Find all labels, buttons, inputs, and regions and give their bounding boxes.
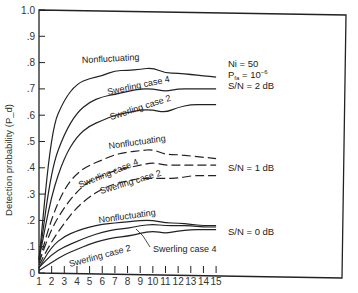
y-axis-label: Detection probability (P_d) — [3, 104, 14, 216]
label-sw2-2db: Swerling case 2 — [109, 93, 173, 122]
x-tick-label: 15 — [211, 276, 223, 287]
label-sw4-2db: Swerling case 4 — [106, 74, 170, 97]
x-tick-label: 13 — [185, 276, 197, 287]
x-tick-label: 11 — [160, 276, 171, 287]
x-tick-label: 4 — [74, 276, 80, 287]
y-tick-label: 1.0 — [21, 5, 35, 16]
x-axis: 123456789101112131415 — [36, 266, 222, 287]
label-nonfluct-1db: Nonfluctuating — [108, 133, 166, 151]
label-sw4-0db: Swerling case 4 — [153, 244, 217, 254]
y-tick-label: .9 — [27, 31, 36, 42]
x-tick-label: 7 — [112, 276, 118, 287]
annotation-sn2: S/N = 2 dB — [228, 80, 274, 91]
y-tick-label: .3 — [27, 189, 36, 200]
label-sw2-0db: Swerling case 2 — [68, 243, 132, 269]
x-tick-label: 8 — [125, 276, 131, 287]
y-tick-label: .1 — [27, 241, 36, 252]
y-tick-label: .6 — [27, 110, 36, 121]
x-tick-label: 12 — [173, 276, 185, 287]
label-nonfluct-2db: Nonfluctuating — [82, 52, 140, 65]
y-tick-label: .2 — [27, 215, 36, 226]
annotation-sn0: S/N = 0 dB — [228, 226, 274, 237]
x-tick-label: 6 — [99, 276, 105, 287]
y-tick-label: .8 — [27, 57, 36, 68]
y-tick-label: .5 — [27, 136, 36, 147]
annotation-sn1: S/N = 1 dB — [228, 162, 274, 173]
detection-probability-chart: 0.1.2.3.4.5.6.7.8.91.0 12345678910111213… — [0, 0, 358, 293]
x-tick-label: 14 — [198, 276, 210, 287]
y-tick-label: 0 — [29, 268, 35, 279]
annotation-ni: Ni = 50 — [228, 58, 258, 69]
x-tick-label: 1 — [36, 276, 42, 287]
x-tick-label: 10 — [147, 276, 159, 287]
annotations: Ni = 50 Pfa = 10−6 S/N = 2 dB S/N = 1 dB… — [228, 58, 274, 237]
x-tick-label: 9 — [137, 276, 143, 287]
x-tick-label: 2 — [49, 276, 55, 287]
x-tick-label: 3 — [62, 276, 68, 287]
y-tick-label: .7 — [27, 83, 36, 94]
x-tick-label: 5 — [87, 276, 93, 287]
y-tick-label: .4 — [27, 162, 36, 173]
